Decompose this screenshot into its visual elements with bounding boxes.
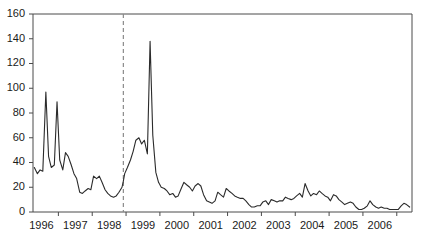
y-tick-label: 0 [19,205,25,217]
x-tick-label: 1998 [97,219,121,231]
x-tick-label: 2000 [165,219,189,231]
axis-frame [33,14,412,212]
x-tick-label: 2005 [334,219,358,231]
x-tick-label: 2002 [232,219,256,231]
x-axis-ticks: 1996199719981999200020012002200320042005… [29,212,397,231]
y-tick-label: 140 [7,32,25,44]
x-tick-label: 2004 [300,219,324,231]
y-tick-label: 80 [13,106,25,118]
x-tick-label: 1996 [29,219,53,231]
x-tick-label: 1997 [63,219,87,231]
y-axis-ticks: 020406080100120140160 [7,7,33,217]
x-tick-label: 2006 [368,219,392,231]
y-tick-label: 60 [13,131,25,143]
series-line-1 [34,41,409,209]
y-tick-label: 40 [13,155,25,167]
chart-container: 020406080100120140160 199619971998199920… [0,0,424,242]
y-tick-label: 20 [13,180,25,192]
data-series [34,41,409,209]
plot-frame [33,14,412,212]
x-tick-label: 1999 [131,219,155,231]
y-tick-label: 160 [7,7,25,19]
line-chart: 020406080100120140160 199619971998199920… [0,0,424,242]
x-tick-label: 2001 [198,219,222,231]
y-tick-label: 120 [7,56,25,68]
y-tick-label: 100 [7,81,25,93]
x-tick-label: 2003 [266,219,290,231]
